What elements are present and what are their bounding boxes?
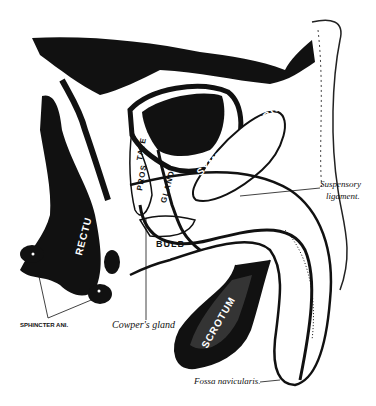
label-bulb: BULB — [156, 240, 185, 249]
label-cowpers-gland: Cowper's gland — [112, 320, 175, 330]
abdominal-wall — [312, 20, 347, 290]
rectum-shape — [20, 95, 101, 295]
suspensory-leader — [240, 188, 320, 196]
label-suspensory-ligament-2: ligament. — [326, 192, 360, 201]
label-suspensory-ligament-1: Suspensory — [320, 180, 361, 189]
label-fossa-navicularis: Fossa navicularis. — [194, 377, 261, 386]
fossa-leader — [260, 380, 280, 382]
bladder-lumen — [142, 94, 224, 156]
anatomical-diagram: SYMPHYSIS PUBIS PROS TATE GLAND RECTU BU… — [0, 0, 376, 406]
diagram-illustration — [0, 0, 376, 406]
sphincter-leader-2 — [48, 298, 96, 318]
sphincter-right — [88, 284, 112, 304]
label-sphincter-ani: SPHINCTER ANI. — [20, 322, 68, 328]
